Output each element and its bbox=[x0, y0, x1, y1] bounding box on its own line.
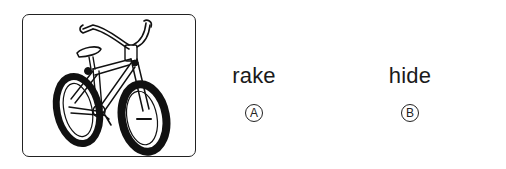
answer-bubble-a[interactable]: A bbox=[245, 104, 263, 122]
choice-word-rake: rake bbox=[214, 62, 294, 90]
choice-word-hide: hide bbox=[370, 62, 450, 90]
bicycle-icon bbox=[23, 15, 195, 156]
picture-frame bbox=[22, 14, 196, 157]
choice-a[interactable]: rake A bbox=[214, 62, 294, 122]
choice-b[interactable]: hide B bbox=[370, 62, 450, 122]
answer-bubble-b[interactable]: B bbox=[401, 104, 419, 122]
